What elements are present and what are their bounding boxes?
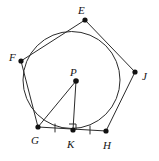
- label-J: J: [142, 70, 148, 82]
- label-G: G: [31, 134, 39, 146]
- point-dot-E: [82, 17, 87, 22]
- label-F: F: [8, 51, 16, 63]
- label-E: E: [77, 4, 85, 16]
- geometry-figure: E F G H J K P: [0, 0, 159, 161]
- inscribed-circle: [23, 32, 120, 129]
- edge-H-J: [106, 72, 135, 131]
- pentagon-outline: [21, 20, 135, 131]
- point-dot-P: [73, 78, 79, 84]
- label-K: K: [66, 138, 75, 150]
- point-dot-H: [103, 128, 108, 133]
- point-dot-F: [18, 58, 23, 63]
- point-dot-J: [132, 69, 137, 74]
- edge-J-E: [85, 20, 135, 72]
- point-dot-G: [35, 124, 40, 129]
- geometry-canvas: E F G H J K P: [0, 0, 159, 161]
- point-dot-K: [70, 127, 75, 132]
- segment-P-K: [73, 81, 76, 130]
- segment-P-G: [38, 81, 76, 127]
- label-P: P: [69, 66, 77, 78]
- label-H: H: [102, 139, 112, 151]
